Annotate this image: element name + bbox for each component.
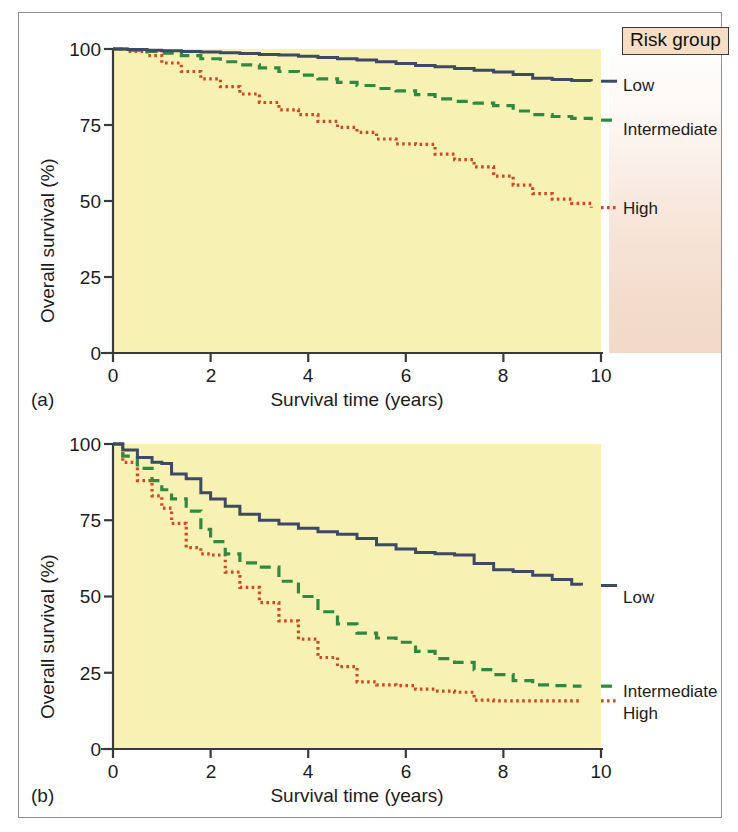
- panel-a-xtick-4: 4: [288, 365, 328, 387]
- panel-b-legend-label-high: High: [623, 704, 658, 724]
- panel-b-plot: [19, 416, 723, 819]
- panel-a-xtick-6: 6: [386, 365, 426, 387]
- panel-a-yaxis-label: Overall survival (%): [37, 158, 59, 323]
- panel-b-xtick-8: 8: [483, 761, 523, 783]
- legend-title: Risk group: [622, 27, 729, 55]
- panel-b: 100 75 50 25 0 0 2 4 6 8 10 Survival tim…: [19, 416, 723, 819]
- panel-a-ytick-75: 75: [39, 115, 101, 137]
- panel-a-plot: [19, 13, 723, 416]
- panel-b-legend-label-low: Low: [623, 588, 654, 608]
- panel-a: 100 75 50 25 0 0 2 4 6 8 10 Survival tim…: [19, 13, 723, 416]
- panel-b-yaxis-label: Overall survival (%): [37, 554, 59, 719]
- panel-b-ytick-100: 100: [39, 434, 101, 456]
- panel-b-legend-label-intermediate: Intermediate: [623, 682, 718, 702]
- panel-a-ytick-100: 100: [39, 39, 101, 61]
- panel-b-xaxis-label: Survival time (years): [213, 785, 501, 807]
- panel-a-ytick-0: 0: [39, 343, 101, 365]
- panel-a-xtick-10: 10: [581, 365, 621, 387]
- legend-label-high: High: [623, 199, 658, 219]
- legend-label-low: Low: [623, 76, 654, 96]
- figure-frame: 100 75 50 25 0 0 2 4 6 8 10 Survival tim…: [18, 12, 722, 818]
- panel-a-xtick-0: 0: [93, 365, 133, 387]
- panel-b-xtick-2: 2: [191, 761, 231, 783]
- legend-label-intermediate: Intermediate: [623, 120, 718, 140]
- panel-a-xtick-2: 2: [191, 365, 231, 387]
- panel-b-xtick-10: 10: [581, 761, 621, 783]
- panel-b-ytick-0: 0: [39, 739, 101, 761]
- panel-a-tag: (a): [31, 389, 54, 411]
- panel-b-xtick-0: 0: [93, 761, 133, 783]
- panel-b-xtick-6: 6: [386, 761, 426, 783]
- panel-a-xtick-8: 8: [483, 365, 523, 387]
- panel-b-xtick-4: 4: [288, 761, 328, 783]
- panel-b-ytick-75: 75: [39, 510, 101, 532]
- panel-b-tag: (b): [31, 785, 54, 807]
- panel-a-xaxis-label: Survival time (years): [213, 389, 501, 411]
